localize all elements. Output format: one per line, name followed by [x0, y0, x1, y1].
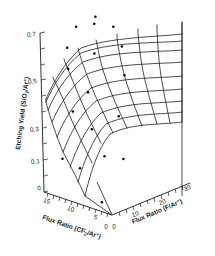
x-tick-label-5: 5 — [93, 213, 99, 221]
data-point — [91, 128, 94, 131]
data-point — [79, 167, 82, 170]
y-axis-title-b: ) — [178, 197, 183, 205]
z-tick-label-2: 0.3 — [29, 125, 39, 133]
surface-plot-figure: 0.7 0.5 0.3 0.1 0 Etching Yield (SiO2/Ar… — [0, 0, 215, 256]
z-axis: 0.7 0.5 0.3 0.1 0 Etching Yield (SiO2/Ar… — [14, 30, 48, 192]
data-point — [122, 158, 125, 161]
data-point — [93, 23, 96, 26]
z-axis-ticks — [40, 32, 48, 192]
z-axis-title: Etching Yield (SiO2/Ar+) — [14, 76, 32, 150]
z-tick-label-0: 0.7 — [26, 30, 36, 38]
data-point — [112, 25, 115, 28]
x-tick-label-10: 10 — [66, 204, 75, 213]
data-point — [103, 155, 106, 158]
data-point — [87, 91, 90, 94]
x-axis-ticks — [47, 193, 108, 217]
x-tick-label-0: 0 — [104, 223, 108, 230]
plot-canvas: 0.7 0.5 0.3 0.1 0 Etching Yield (SiO2/Ar… — [0, 0, 215, 256]
data-point — [67, 67, 70, 70]
y-axis: 0 10 20 30 Flux Ratio (F/Ar+) — [112, 183, 192, 230]
z-tick-label-4: 0 — [37, 184, 42, 191]
data-point — [101, 201, 104, 204]
data-point — [66, 47, 69, 50]
x-tick-label-15: 15 — [42, 196, 51, 205]
data-point — [72, 110, 75, 113]
data-point — [123, 74, 126, 77]
data-point — [94, 16, 97, 19]
z-axis-line — [40, 33, 44, 192]
z-axis-title-a: Etching Yield (SiO — [14, 93, 29, 150]
z-tick-label-3: 0.1 — [30, 157, 40, 165]
y-tick-label-30: 30 — [182, 183, 192, 192]
y-tick-label-0: 0 — [112, 223, 116, 230]
data-point — [75, 26, 78, 29]
data-point — [117, 115, 120, 118]
x-axis-title-a: Flux Ratio (CF — [41, 213, 86, 235]
x-axis: 15 10 5 0 Flux Ratio (CF2/Ar+) — [41, 192, 112, 241]
data-point — [121, 45, 124, 48]
data-point — [93, 52, 96, 55]
data-point — [61, 157, 64, 160]
